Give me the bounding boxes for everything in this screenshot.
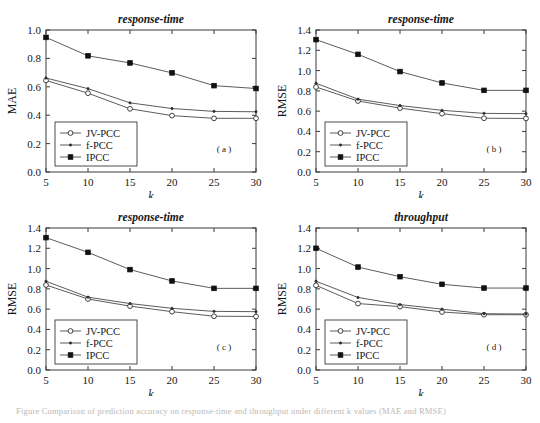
panel-title: throughput: [394, 211, 449, 224]
marker-filled-square-icon: [128, 61, 133, 66]
marker-small-dot-icon: [399, 303, 401, 305]
marker-small-dot-icon: [129, 302, 131, 304]
y-tick-label: 0.0: [297, 166, 311, 178]
x-axis-title: k: [418, 387, 424, 396]
legend-label-f-pcc: f-PCC: [356, 140, 383, 151]
legend-filled-square-icon: [68, 353, 73, 358]
y-tick-label: 0.8: [297, 85, 311, 97]
x-tick-label: 15: [395, 374, 407, 386]
y-tick-label: 0.8: [27, 283, 41, 295]
legend-small-dot-icon: [339, 342, 341, 344]
legend-open-circle-icon: [338, 131, 343, 136]
legend-small-dot-icon: [339, 144, 341, 146]
y-tick-label: 0.0: [27, 166, 41, 178]
chart-panel-c: response-time0.00.20.40.60.81.01.21.4510…: [0, 198, 270, 396]
chart-panel-b: response-time0.00.20.40.60.81.01.21.4510…: [270, 0, 540, 198]
legend-label-ipcc: IPCC: [86, 350, 109, 361]
marker-filled-square-icon: [398, 274, 403, 279]
marker-small-dot-icon: [525, 313, 527, 315]
x-tick-label: 20: [437, 374, 449, 386]
marker-open-circle-icon: [482, 116, 487, 121]
x-tick-label: 20: [437, 176, 449, 188]
x-tick-label: 25: [209, 374, 221, 386]
x-tick-label: 30: [521, 176, 533, 188]
figure-caption-line: Figure Comparison of prediction accuracy…: [0, 400, 540, 423]
y-axis-title: RMSE: [275, 283, 289, 316]
marker-small-dot-icon: [483, 112, 485, 114]
x-tick-label: 30: [251, 374, 263, 386]
y-tick-label: 0.0: [27, 364, 41, 376]
marker-small-dot-icon: [171, 107, 173, 109]
panel-tag: ( b ): [487, 144, 502, 154]
marker-open-circle-icon: [524, 116, 529, 121]
y-tick-label: 1.4: [27, 222, 41, 234]
marker-open-circle-icon: [170, 309, 175, 314]
legend-label-ipcc: IPCC: [86, 152, 109, 163]
marker-small-dot-icon: [213, 110, 215, 112]
legend-label-f-pcc: f-PCC: [356, 338, 383, 349]
series-line-f-pcc: [46, 78, 256, 112]
panel-grid: response-time0.00.20.40.60.81.0510152025…: [0, 0, 540, 400]
x-tick-label: 5: [313, 374, 319, 386]
marker-small-dot-icon: [399, 104, 401, 106]
x-tick-label: 15: [395, 176, 407, 188]
x-tick-label: 10: [83, 176, 95, 188]
x-tick-label: 5: [43, 176, 49, 188]
marker-open-circle-icon: [212, 314, 217, 319]
marker-filled-square-icon: [212, 83, 217, 88]
marker-small-dot-icon: [213, 310, 215, 312]
panel-tag: ( a ): [217, 144, 232, 154]
y-tick-label: 1.2: [297, 44, 311, 56]
marker-filled-square-icon: [524, 88, 529, 93]
legend-label-jv-pcc: JV-PCC: [86, 128, 120, 139]
marker-open-circle-icon: [254, 116, 259, 121]
marker-small-dot-icon: [357, 98, 359, 100]
legend-label-f-pcc: f-PCC: [86, 338, 113, 349]
y-axis-title: RMSE: [5, 283, 19, 316]
series-line-f-pcc: [316, 83, 526, 113]
marker-filled-square-icon: [314, 246, 319, 251]
marker-filled-square-icon: [170, 71, 175, 76]
marker-filled-square-icon: [524, 286, 529, 291]
series-line-f-pcc: [46, 281, 256, 311]
marker-small-dot-icon: [45, 280, 47, 282]
y-tick-label: 0.2: [297, 344, 311, 356]
y-tick-label: 1.0: [27, 24, 41, 36]
series-line-jv-pcc: [316, 285, 526, 314]
y-axis-title: MAE: [5, 88, 19, 115]
chart-svg-a: response-time0.00.20.40.60.81.0510152025…: [0, 0, 270, 198]
x-tick-label: 10: [353, 374, 365, 386]
marker-open-circle-icon: [170, 113, 175, 118]
y-tick-label: 1.0: [27, 263, 41, 275]
figure-container: response-time0.00.20.40.60.81.0510152025…: [0, 0, 540, 423]
x-tick-label: 10: [83, 374, 95, 386]
marker-small-dot-icon: [357, 296, 359, 298]
legend-small-dot-icon: [69, 342, 71, 344]
legend-label-jv-pcc: JV-PCC: [86, 326, 120, 337]
marker-filled-square-icon: [86, 250, 91, 255]
y-tick-label: 0.8: [27, 52, 41, 64]
y-tick-label: 1.0: [297, 65, 311, 77]
marker-open-circle-icon: [356, 301, 361, 306]
y-tick-label: 0.6: [27, 303, 41, 315]
y-tick-label: 0.4: [297, 125, 311, 137]
chart-svg-d: throughput0.00.20.40.60.81.01.21.4510152…: [270, 198, 540, 396]
series-line-ipcc: [316, 40, 526, 91]
legend-small-dot-icon: [69, 144, 71, 146]
chart-panel-d: throughput0.00.20.40.60.81.01.21.4510152…: [270, 198, 540, 396]
y-tick-label: 1.2: [27, 242, 41, 254]
marker-filled-square-icon: [482, 286, 487, 291]
chart-svg-c: response-time0.00.20.40.60.81.01.21.4510…: [0, 198, 270, 396]
panel-tag: ( c ): [217, 342, 232, 352]
legend-label-jv-pcc: JV-PCC: [356, 326, 390, 337]
marker-filled-square-icon: [44, 235, 49, 240]
legend-label-f-pcc: f-PCC: [86, 140, 113, 151]
legend-label-ipcc: IPCC: [356, 350, 379, 361]
x-tick-label: 10: [353, 176, 365, 188]
x-tick-label: 30: [521, 374, 533, 386]
x-axis-title: k: [148, 189, 154, 198]
x-tick-label: 15: [125, 374, 137, 386]
y-tick-label: 1.2: [297, 242, 311, 254]
marker-open-circle-icon: [440, 111, 445, 116]
x-tick-label: 20: [167, 374, 179, 386]
